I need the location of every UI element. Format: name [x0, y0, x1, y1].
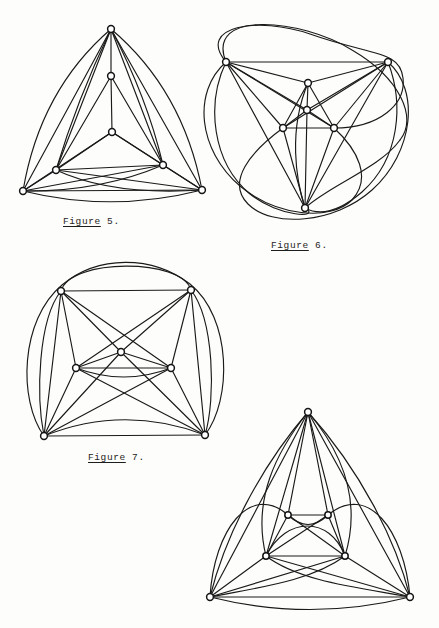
edge [61, 291, 171, 368]
figure-5-graph [20, 26, 206, 202]
graph-vertex [223, 59, 230, 66]
graph-vertex [407, 594, 414, 601]
edge [266, 556, 410, 597]
figure-7-caption-number: 7. [126, 452, 145, 463]
edge [163, 165, 202, 190]
figure-5-caption-word: Figure [63, 216, 101, 227]
edge [121, 290, 191, 352]
edge [308, 62, 388, 83]
edge [111, 76, 163, 165]
graph-vertex [41, 433, 48, 440]
edge-arc [210, 504, 288, 597]
edge [44, 435, 205, 436]
edge [111, 29, 163, 165]
edge [61, 291, 121, 352]
graph-vertex [305, 409, 312, 416]
edge [308, 412, 328, 515]
figure-6-caption-number: 6. [309, 240, 328, 251]
graph-vertex [305, 80, 312, 87]
edge [266, 412, 308, 556]
graph-vertex [202, 432, 209, 439]
edge [283, 62, 388, 128]
edge [191, 290, 205, 435]
graph-vertex [108, 26, 115, 33]
graph-vertex [302, 205, 309, 212]
document-page: Figure 5. Figure 6. Figure 7. [0, 0, 439, 628]
graph-vertex [109, 129, 116, 136]
edge [305, 128, 334, 208]
edge-arc [61, 266, 191, 291]
figure-6-caption-word: Figure [271, 240, 309, 251]
figure-6-edges [204, 24, 408, 219]
edge [307, 110, 334, 128]
figure-5-caption-number: 5. [101, 216, 120, 227]
figures-canvas [0, 0, 439, 628]
edge [44, 368, 76, 436]
graph-vertex [207, 594, 214, 601]
edge [61, 290, 191, 291]
graph-vertex [108, 73, 115, 80]
edge-arc [40, 291, 61, 436]
graph-vertex [263, 553, 269, 559]
edge [44, 291, 61, 436]
edge [44, 368, 171, 436]
edge [111, 76, 112, 132]
figure-7-vertices [41, 287, 209, 440]
graph-vertex [73, 365, 80, 372]
edge-arc [262, 412, 308, 556]
graph-vertex [285, 512, 291, 518]
edge [56, 29, 111, 170]
graph-vertex [199, 187, 206, 194]
graph-vertex [280, 125, 287, 132]
figure-8-vertices [207, 409, 414, 601]
graph-vertex [325, 512, 331, 518]
edge-arc [328, 504, 410, 597]
edge-arc [210, 597, 410, 610]
graph-vertex [118, 349, 125, 356]
edge [210, 556, 266, 597]
graph-vertex [20, 188, 27, 195]
edge [226, 62, 283, 128]
edge [283, 110, 307, 128]
edge [121, 352, 205, 435]
edge [288, 412, 308, 515]
graph-vertex [58, 288, 65, 295]
figure-7-caption: Figure 7. [88, 452, 145, 463]
graph-vertex [188, 287, 195, 294]
figure-7-caption-word: Figure [88, 452, 126, 463]
edge [226, 62, 305, 208]
graph-vertex [168, 365, 175, 372]
edge-arc [204, 62, 362, 213]
edge [308, 83, 334, 128]
edge [226, 62, 334, 128]
figure-5-caption: Figure 5. [63, 216, 120, 227]
graph-vertex [53, 167, 60, 174]
edge-arc [215, 62, 309, 214]
figure-6-graph [204, 24, 408, 219]
graph-vertex [331, 125, 338, 132]
edge-arc [23, 190, 202, 202]
graph-vertex [385, 59, 392, 66]
edge [44, 352, 121, 436]
edge [283, 83, 308, 128]
graph-vertex [160, 162, 167, 169]
figure-5-edges [23, 29, 202, 202]
edge [210, 556, 345, 597]
edge-arc [223, 24, 407, 140]
figure-5-vertices [20, 26, 206, 195]
figure-8-edges [210, 412, 410, 610]
figure-6-caption: Figure 6. [271, 240, 328, 251]
edge [76, 368, 205, 435]
edge [61, 291, 76, 368]
edge [56, 170, 202, 190]
figure-8-graph [207, 409, 414, 610]
edge-arc [288, 515, 328, 525]
figure-7-graph [27, 262, 224, 439]
edge [305, 110, 307, 208]
graph-vertex [342, 553, 348, 559]
edge [226, 62, 308, 83]
graph-vertex [304, 107, 311, 114]
edge [23, 29, 111, 191]
